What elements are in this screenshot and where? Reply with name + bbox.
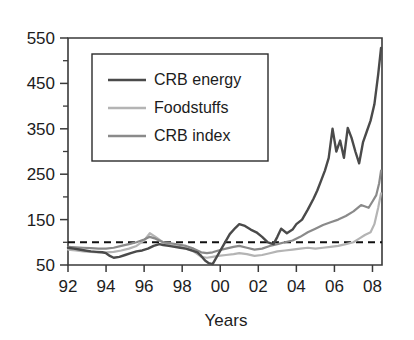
x-tick-label: 94 [97,277,116,296]
y-tick-label: 250 [27,165,55,184]
y-tick-label: 50 [36,256,55,275]
x-axis-labels: 929496980002040608 [59,277,382,296]
y-tick-label: 150 [27,211,55,230]
x-tick-label: 00 [211,277,230,296]
chart-container: 50150250350450550 929496980002040608 CRB… [0,0,414,340]
legend-label-foodstuffs: Foodstuffs [154,99,228,116]
x-tick-label: 06 [325,277,344,296]
y-tick-label: 350 [27,120,55,139]
x-tick-label: 08 [363,277,382,296]
legend-label-crb-energy: CRB energy [154,71,241,88]
x-tick-label: 02 [249,277,268,296]
x-tick-label: 92 [59,277,78,296]
legend-label-crb-index: CRB index [154,127,230,144]
y-tick-label: 450 [27,74,55,93]
line-chart: 50150250350450550 929496980002040608 CRB… [0,0,414,340]
y-tick-label: 550 [27,29,55,48]
x-tick-label: 96 [135,277,154,296]
x-axis-title: Years [205,311,248,330]
x-tick-label: 98 [173,277,192,296]
x-tick-label: 04 [287,277,306,296]
chart-legend: CRB energyFoodstuffsCRB index [92,54,268,161]
